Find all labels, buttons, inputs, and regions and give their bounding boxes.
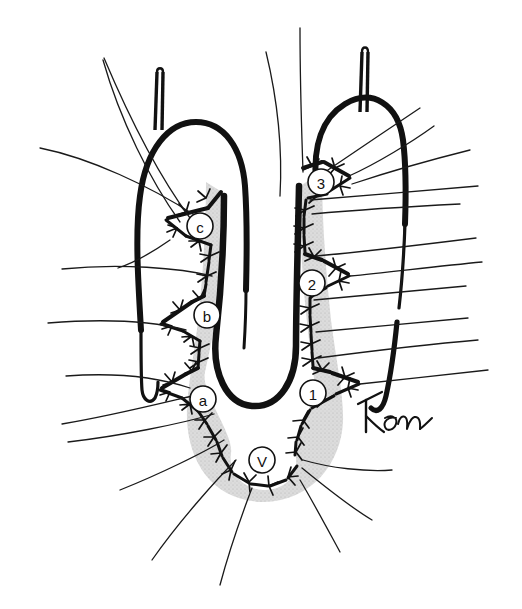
surgical-diagram-canvas: c b a V 1 2: [0, 0, 522, 609]
label-1-text: 1: [309, 386, 317, 403]
canvas-background: [0, 0, 522, 609]
label-c-text: c: [196, 219, 204, 236]
label-b-text: b: [203, 308, 211, 325]
figure-root: c b a V 1 2: [0, 0, 522, 609]
label-2-text: 2: [308, 276, 316, 293]
label-v[interactable]: V: [249, 447, 275, 473]
label-v-text: V: [257, 453, 267, 470]
label-a[interactable]: a: [190, 386, 216, 412]
label-1[interactable]: 1: [300, 380, 326, 406]
label-3[interactable]: 3: [308, 169, 334, 195]
label-a-text: a: [199, 392, 208, 409]
label-c[interactable]: c: [187, 213, 213, 239]
label-b[interactable]: b: [194, 302, 220, 328]
label-3-text: 3: [317, 175, 325, 192]
label-2[interactable]: 2: [299, 270, 325, 296]
